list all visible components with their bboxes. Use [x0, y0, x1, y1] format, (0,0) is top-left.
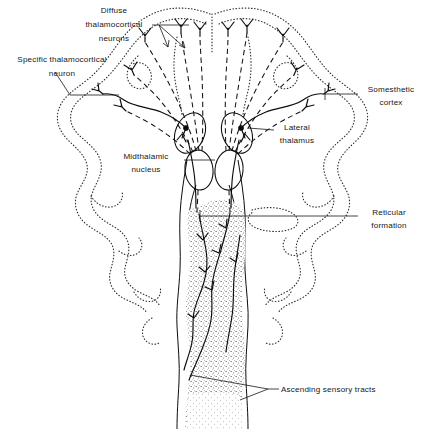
label-midthalamic-nucleus-line2: nucleus	[131, 165, 160, 174]
diffuse-terminal-right-4	[291, 62, 304, 75]
cortex-right-sulcus-3	[283, 238, 306, 255]
specific-neuron-left-axon	[103, 94, 186, 128]
diffuse-terminal-left-3	[194, 22, 206, 36]
diffuse-terminal-left-4	[124, 62, 137, 75]
diffuse-terminal-right-2	[241, 19, 253, 33]
cortex-reticular-pointer-gyrus	[248, 208, 298, 232]
leader-diffuse-arrowhead-2	[163, 40, 169, 47]
diffuse-fiber-right-2	[229, 33, 247, 151]
diffuse-terminal-right-3	[222, 22, 234, 36]
cortex-left-sulcus-3	[119, 238, 142, 255]
diffuse-thalamocortical-fibers	[114, 19, 314, 214]
leader-ascending-b	[240, 389, 268, 400]
brainstem-group	[177, 160, 248, 429]
diffuse-fiber-left-5	[126, 111, 190, 154]
thalamocortical-diagram: Diffuse thalamocortical neurons Specific…	[0, 0, 425, 429]
cortex-left-medial-fold	[174, 37, 182, 115]
label-diffuse-thalamocortical-line3: neurons	[99, 34, 130, 43]
label-somesthetic-cortex-line2: cortex	[379, 98, 402, 107]
diffuse-terminal-left-1	[139, 28, 151, 42]
label-reticular-formation-line1: Reticular	[372, 208, 406, 217]
figure-root: Diffuse thalamocortical neurons Specific…	[0, 0, 425, 429]
cortex-left-sulcus-2	[91, 192, 122, 207]
cortex-left-sulcus-4	[134, 287, 161, 302]
specific-thalamocortical-neurons	[92, 83, 335, 208]
leader-lateral-thalamus	[248, 128, 274, 130]
label-somesthetic-cortex-line1: Somesthetic	[368, 85, 415, 94]
diffuse-terminal-left-2	[175, 19, 187, 33]
label-diffuse-thalamocortical-line2: thalamocortical	[85, 20, 142, 29]
specific-neuron-right-axon	[241, 94, 324, 128]
reticular-formation-core-fade	[186, 393, 242, 429]
diffuse-fiber-right-1	[232, 42, 283, 151]
midthalamic-nucleus-right-oval	[213, 149, 245, 192]
specific-neuron-right-terminal	[324, 83, 335, 94]
cortex-right-sulcus-4	[264, 287, 291, 302]
cortex-right-sulcus-2	[303, 192, 334, 207]
diffuse-terminal-right-1	[277, 28, 289, 42]
label-midthalamic-nucleus-line1: Midthalamic	[123, 152, 168, 161]
label-specific-thalamocortical-line2: neuron	[49, 69, 75, 78]
specific-neuron-right-dendrites	[241, 128, 250, 142]
cortex-right-medial-fold	[243, 37, 251, 115]
label-specific-thalamocortical-line1: Specific thalamocortical	[17, 55, 106, 64]
cortex-left-sulcus-1	[127, 56, 151, 89]
cortex-left-inferior-fragment	[142, 318, 159, 344]
cortex-right-sulcus-1	[274, 56, 298, 89]
specific-neuron-left-terminal	[92, 83, 103, 94]
label-reticular-formation-line2: formation	[371, 221, 406, 230]
label-diffuse-thalamocortical-line1: Diffuse	[101, 6, 128, 15]
cortex-right-inferior-fragment	[266, 318, 283, 344]
brainstem-wall-left-outer	[177, 160, 187, 429]
midthalamic-nucleus-left-oval	[183, 149, 215, 192]
thalamic-nuclei-group	[169, 108, 259, 191]
diffuse-fiber-right-5	[238, 111, 302, 154]
diffuse-fiber-left-3	[200, 36, 203, 151]
label-lateral-thalamus-line1: Lateral	[284, 123, 310, 132]
leader-somesthetic-cortex	[325, 88, 358, 100]
diffuse-terminal-right-5	[302, 99, 314, 111]
label-ascending-sensory-tracts: Ascending sensory tracts	[281, 385, 376, 394]
diffuse-fiber-right-3	[225, 36, 228, 151]
diffuse-fiber-left-1	[145, 42, 196, 151]
label-lateral-thalamus-line2: thalamus	[280, 136, 314, 145]
